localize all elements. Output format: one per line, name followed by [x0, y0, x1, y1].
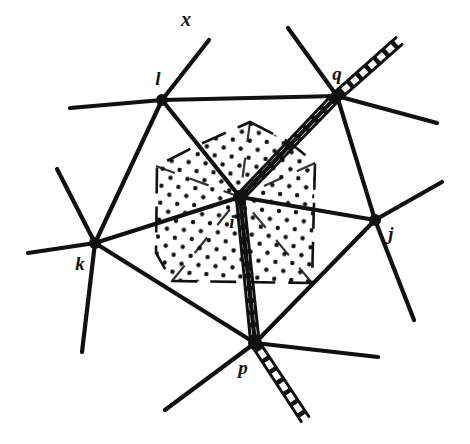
dislocation-tie — [245, 288, 254, 289]
node-label-l: l — [155, 68, 161, 89]
figure-canvas: lqikjp x — [0, 0, 470, 444]
dislocation-tie — [269, 368, 277, 373]
stub-k-northwest — [57, 169, 95, 243]
dislocation-tie — [365, 65, 371, 72]
stub-k-west — [28, 243, 95, 253]
dislocation-tie — [356, 73, 362, 80]
dislocation-tie — [246, 300, 255, 301]
lattice-node-l — [156, 94, 168, 106]
dislocation-tie — [239, 227, 248, 228]
bond-l-k — [95, 100, 162, 243]
dislocation-tie — [237, 215, 246, 216]
dislocation-tie — [247, 312, 256, 313]
dislocation-tie — [242, 264, 251, 265]
dislocation-tie — [262, 357, 270, 362]
node-label-k: k — [75, 253, 85, 274]
dislocation-tie — [283, 389, 291, 394]
dislocation-tie — [249, 324, 258, 325]
stub-l-west — [70, 100, 162, 108]
node-label-j: j — [385, 223, 394, 244]
dislocation-tie — [374, 57, 380, 64]
axis-x-label: x — [180, 8, 191, 30]
node-label-p: p — [236, 357, 248, 378]
dislocation-tie — [291, 400, 299, 405]
dislocation-tie — [241, 251, 250, 252]
bond-q-j — [337, 96, 375, 220]
dislocation-tie — [347, 81, 353, 88]
dislocation-tie — [276, 379, 284, 384]
lattice-node-i — [233, 190, 247, 204]
dislocation-tie — [383, 49, 389, 56]
dislocation-tie — [298, 411, 306, 416]
stub-l-x-axis — [162, 40, 209, 100]
dislocation-tie — [240, 239, 249, 240]
lattice-node-p — [248, 336, 262, 350]
stub-p-east — [255, 343, 378, 357]
stub-q-east — [337, 96, 437, 123]
dislocation-tie — [244, 276, 253, 277]
node-label-q: q — [332, 63, 342, 84]
stub-j-northeast — [375, 182, 442, 220]
node-label-i: i — [229, 211, 235, 232]
dislocation-tie — [392, 42, 398, 49]
stub-q-northwest — [288, 28, 337, 96]
lattice-node-k — [89, 237, 101, 249]
bond-l-q — [162, 96, 337, 100]
lattice-diagram: lqikjp x — [0, 0, 470, 444]
lattice-node-j — [369, 214, 381, 226]
lattice-node-q — [331, 90, 343, 102]
stub-j-southeast — [375, 220, 414, 320]
